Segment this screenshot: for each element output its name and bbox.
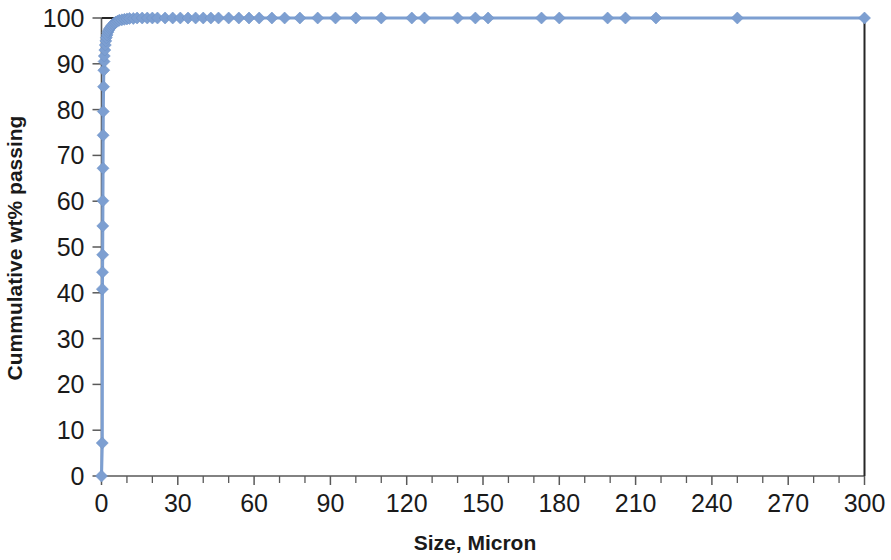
- y-tick-label: 40: [57, 279, 85, 307]
- x-tick-label: 210: [615, 489, 657, 517]
- x-tick-label: 120: [386, 489, 428, 517]
- y-tick-label: 0: [71, 462, 85, 490]
- x-tick-label: 30: [164, 489, 192, 517]
- x-tick-label: 90: [316, 489, 344, 517]
- y-tick-label: 100: [43, 4, 85, 32]
- y-tick-label: 30: [57, 325, 85, 353]
- x-tick-label: 150: [462, 489, 504, 517]
- x-tick-label: 0: [95, 489, 109, 517]
- x-tick-label: 300: [844, 489, 886, 517]
- y-tick-label: 60: [57, 187, 85, 215]
- y-tick-label: 50: [57, 233, 85, 261]
- chart-canvas: 0306090120150180210240270300 01020304050…: [0, 0, 891, 560]
- x-tick-label: 270: [767, 489, 809, 517]
- y-tick-label: 10: [57, 416, 85, 444]
- y-axis-title: Cummulative wt% passing: [3, 116, 26, 381]
- y-tick-label: 80: [57, 96, 85, 124]
- x-tick-label: 180: [538, 489, 580, 517]
- y-tick-label: 20: [57, 370, 85, 398]
- particle-size-distribution-chart: 0306090120150180210240270300 01020304050…: [0, 0, 891, 560]
- y-tick-label: 90: [57, 50, 85, 78]
- x-axis-title: Size, Micron: [414, 531, 537, 554]
- x-tick-label: 240: [691, 489, 733, 517]
- y-tick-label: 70: [57, 141, 85, 169]
- x-tick-label: 60: [240, 489, 268, 517]
